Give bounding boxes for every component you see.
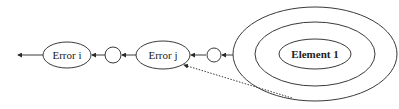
- node-circle-1: [105, 47, 121, 63]
- element-1-label: Element 1: [291, 48, 338, 60]
- error-i-label: Error i: [52, 49, 81, 61]
- node-error-j: Error j: [136, 41, 190, 69]
- error-j-label: Error j: [148, 49, 177, 61]
- node-error-i: Error i: [43, 42, 91, 68]
- error-propagation-diagram: Element 1 Error i Error j: [0, 0, 399, 109]
- node-circle-2: [207, 48, 221, 62]
- element-1-group: Element 1: [233, 7, 397, 101]
